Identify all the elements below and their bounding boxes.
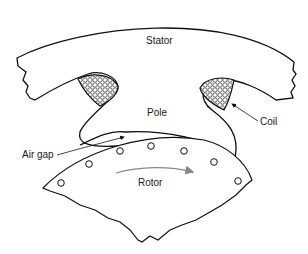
pole-label: Pole [147,107,167,118]
diagram-canvas: Coil Air gap Stator Pole Rotor [0,0,308,254]
coil-pointer-arrow [232,104,258,121]
air-gap-label: Air gap [22,149,54,160]
coil-label: Coil [260,116,277,127]
stator-label: Stator [146,35,173,46]
coil-right [200,78,234,110]
rotor-body [43,137,252,242]
rotor-label: Rotor [138,177,163,188]
motor-cross-section-diagram: Coil Air gap Stator Pole Rotor [0,0,308,254]
coil-left [78,75,118,106]
